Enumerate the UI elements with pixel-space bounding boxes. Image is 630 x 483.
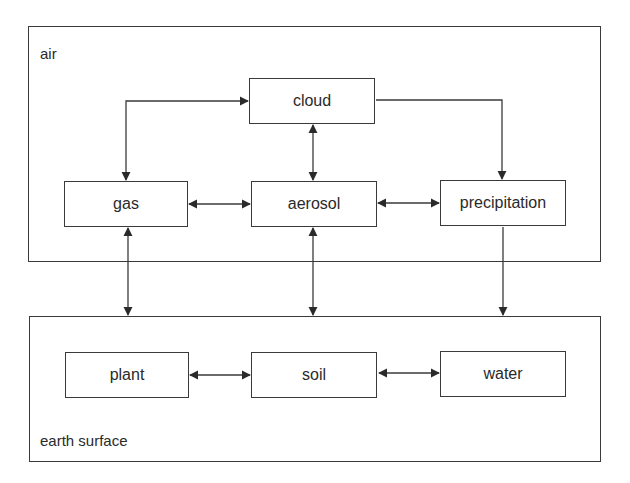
air-region-label: air bbox=[40, 45, 57, 62]
gas-node: gas bbox=[64, 181, 188, 227]
precipitation-node: precipitation bbox=[440, 180, 566, 226]
aerosol-node: aerosol bbox=[251, 181, 377, 227]
plant-node: plant bbox=[65, 352, 189, 398]
water-node: water bbox=[440, 351, 566, 397]
cloud-node: cloud bbox=[249, 78, 375, 124]
soil-node: soil bbox=[251, 352, 377, 398]
earth-surface-region-label: earth surface bbox=[40, 432, 128, 449]
